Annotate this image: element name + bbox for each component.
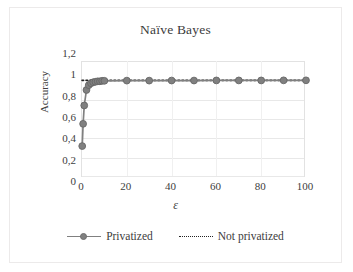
legend-item-not-privatized[interactable]: Not privatized [179,230,284,242]
x-tick-label: 80 [255,180,266,192]
x-tick-label: 20 [120,180,131,192]
data-point-marker [213,77,220,84]
x-axis-tick-labels: 0 20 40 60 80 100 [65,180,325,196]
series-plot [82,61,306,177]
x-tick-label: 100 [297,180,314,192]
dotted-line-icon [179,232,213,241]
data-point-marker [303,77,310,84]
chart-figure: Naïve Bayes Accuracy 1,2 1 0,8 0,6 0,4 0… [9,7,342,263]
y-tick-label: 1,2 [62,47,76,59]
legend-item-privatized[interactable]: Privatized [67,230,153,242]
chart-title: Naïve Bayes [10,22,341,38]
data-point-marker [235,77,242,84]
data-point-marker [79,143,86,150]
y-tick-label: 0,8 [62,90,76,102]
data-point-marker [123,77,130,84]
legend-label: Not privatized [218,230,284,242]
y-tick-label: 0,4 [62,132,76,144]
line-marker-icon [67,232,101,241]
y-tick-label: 0,2 [62,154,76,166]
data-point-marker [280,77,287,84]
data-point-marker [146,77,153,84]
x-axis-title: ε [10,198,341,213]
x-tick-label: 0 [78,180,84,192]
x-tick-label: 60 [210,180,221,192]
y-tick-label: 0,6 [62,111,76,123]
data-point-marker [81,102,88,109]
chart-legend: Privatized Not privatized [10,230,341,242]
data-point-marker [101,77,108,84]
legend-label: Privatized [106,230,153,242]
data-point-marker [258,77,265,84]
y-tick-label: 1 [71,68,77,80]
series-line-privatized [82,80,306,146]
data-point-marker [168,77,175,84]
data-point-marker [80,120,87,127]
x-tick-label: 40 [165,180,176,192]
y-axis-tick-labels: 1,2 1 0,8 0,6 0,4 0,2 0 [38,53,76,185]
plot-area [81,61,305,177]
data-point-marker [191,77,198,84]
